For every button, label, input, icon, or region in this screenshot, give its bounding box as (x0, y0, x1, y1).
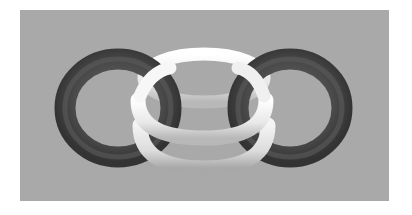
linked-rings-illustration (0, 0, 412, 215)
